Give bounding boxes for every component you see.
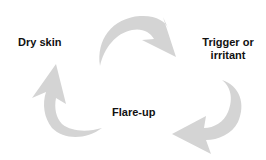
node-label-trigger-or-irritant: Trigger or irritant <box>196 36 260 62</box>
arrow-flare-to-dry-icon <box>32 64 102 137</box>
node-label-flare-up: Flare-up <box>112 106 155 119</box>
node-label-trigger-line1: Trigger or <box>196 36 260 49</box>
eczema-cycle-diagram: Dry skin Trigger or irritant Flare-up <box>0 0 266 160</box>
arrow-dry-to-trigger-icon <box>99 16 176 66</box>
node-label-dry-skin: Dry skin <box>18 36 61 49</box>
node-label-trigger-line2: irritant <box>196 49 260 62</box>
arrow-trigger-to-flare-icon <box>172 80 241 154</box>
cycle-arrows <box>0 0 266 160</box>
